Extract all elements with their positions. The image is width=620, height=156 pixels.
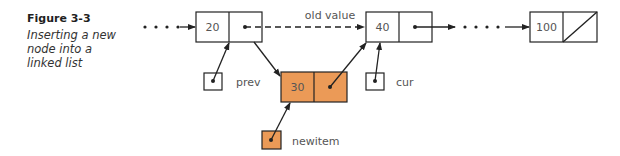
newitem-label: newitem [292, 135, 340, 148]
node-30-value: 30 [291, 81, 305, 94]
prev-label: prev [236, 76, 261, 89]
link-node30-to-node40 [330, 43, 366, 87]
ellipsis-dots-middle [463, 25, 499, 28]
new-link-node20-to-node30 [254, 42, 280, 76]
node-20: 20 [196, 12, 262, 42]
node-100: 100 [530, 12, 597, 42]
cur-label: cur [396, 76, 414, 89]
node-30-new: 30 [281, 72, 347, 102]
node-20-value: 20 [206, 21, 220, 34]
linked-list-diagram: 20 old value 40 100 30 prev [0, 0, 620, 156]
node-100-value: 100 [536, 21, 557, 34]
prev-pointer: prev [204, 43, 261, 90]
old-value-label: old value [305, 9, 356, 22]
cur-pointer: cur [366, 43, 414, 90]
ellipsis-dots-left [143, 25, 179, 28]
node-40-value: 40 [376, 21, 390, 34]
newitem-pointer: newitem [262, 103, 340, 149]
